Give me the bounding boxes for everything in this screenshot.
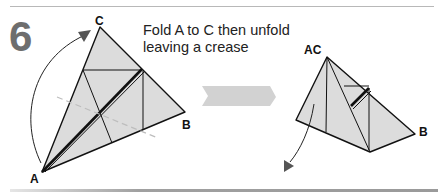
label-b-right: B — [419, 125, 428, 139]
left-triangle — [31, 27, 185, 172]
label-c: C — [95, 14, 104, 28]
next-step-arrow-icon — [202, 86, 276, 106]
arrow-head-icon — [78, 30, 91, 42]
label-b-left: B — [182, 118, 191, 132]
fold-diagram — [0, 0, 438, 196]
right-triangle — [284, 57, 415, 172]
label-a: A — [30, 172, 39, 186]
bottom-divider — [10, 189, 438, 192]
unfold-arrow-head-icon — [284, 160, 294, 172]
label-ac: AC — [304, 43, 321, 57]
